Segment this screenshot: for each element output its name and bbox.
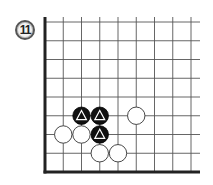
white-stone xyxy=(55,126,72,143)
black-stone xyxy=(91,126,108,143)
black-stone xyxy=(91,107,108,124)
white-stone xyxy=(128,107,145,124)
white-stone xyxy=(91,145,108,162)
white-stone xyxy=(73,126,90,143)
go-board xyxy=(0,0,213,185)
white-stone xyxy=(109,145,126,162)
black-stone xyxy=(73,107,90,124)
